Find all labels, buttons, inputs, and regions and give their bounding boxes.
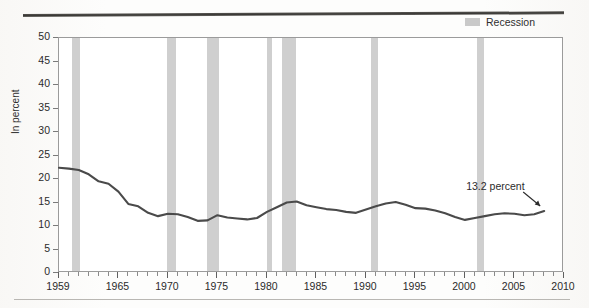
y-axis-title: In percent: [10, 90, 21, 134]
chart-legend: Recession: [465, 16, 535, 28]
y-axis-tick-label: 35: [28, 101, 50, 113]
x-axis-tick-label: 2005: [496, 280, 530, 292]
legend-label-recession: Recession: [486, 16, 535, 28]
x-axis-tick-label: 1985: [298, 280, 332, 292]
x-axis-tick-label: 1965: [100, 280, 134, 292]
x-axis-tick-label: 1959: [41, 280, 75, 292]
y-axis-tick-label: 20: [28, 171, 50, 183]
plot-area: [58, 37, 563, 272]
x-axis-tick-label: 1975: [199, 280, 233, 292]
x-axis-tick-label: 1990: [348, 280, 382, 292]
series-line-in-percent: [59, 168, 544, 221]
bottom-divider-rule: [14, 299, 570, 300]
x-axis-tick-label: 2000: [447, 280, 481, 292]
y-axis-tick-label: 30: [28, 124, 50, 136]
y-axis-tick-label: 5: [28, 242, 50, 254]
y-axis-tick-label: 50: [28, 30, 50, 42]
x-axis-tick-label: 1995: [397, 280, 431, 292]
recession-swatch-icon: [465, 18, 480, 26]
endpoint-annotation: 13.2 percent: [466, 180, 524, 192]
x-axis-tick-label: 1970: [150, 280, 184, 292]
y-axis-tick-label: 45: [28, 54, 50, 66]
x-axis-tick-label: 1980: [249, 280, 283, 292]
y-axis-tick-label: 10: [28, 218, 50, 230]
y-axis-tick-label: 15: [28, 195, 50, 207]
x-axis-tick-label: 2010: [546, 280, 580, 292]
data-line-series: [59, 38, 564, 273]
y-axis-tick-label: 25: [28, 148, 50, 160]
y-axis-tick-label: 0: [28, 265, 50, 277]
y-axis-tick-label: 40: [28, 77, 50, 89]
